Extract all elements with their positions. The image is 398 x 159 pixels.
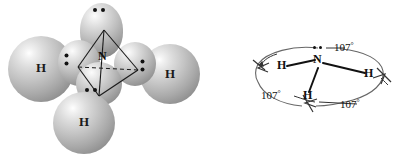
bond-lines <box>287 60 365 92</box>
tetrahedron-hidden-edge <box>78 67 138 70</box>
lone-pair-dots-right <box>139 60 145 73</box>
lone-pair-dots-left <box>63 54 69 67</box>
angle-label-bottom-right: 107° <box>340 98 360 110</box>
angle-label-bottom-left: 107° <box>261 89 281 101</box>
hydrogen-label-diagram-bottom: H <box>303 88 312 103</box>
nitrogen-label: N <box>98 49 107 64</box>
nitrogen-lone-pair-dots <box>313 46 324 50</box>
space-filling-model: H H H N <box>0 0 205 159</box>
lone-pair-dots-bottom <box>85 88 98 94</box>
hydrogen-label-diagram-left: H <box>277 58 286 73</box>
lone-pair-dots-top <box>93 8 106 14</box>
bond-angle-diagram: N H H H 107° 107° 107° <box>205 0 398 159</box>
hydrogen-label-diagram-right: H <box>364 66 373 81</box>
tetrahedron-wireframe <box>0 0 205 159</box>
ammonia-molecule-figure: H H H N <box>0 0 398 159</box>
angle-label-top-right: 107° <box>334 41 354 53</box>
nitrogen-label-diagram: N <box>313 52 322 67</box>
